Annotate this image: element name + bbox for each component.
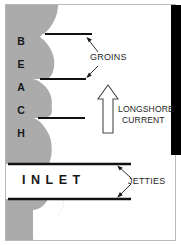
beach-letter-e: E: [17, 59, 24, 70]
right-black-bar: [171, 5, 181, 155]
longshore-current-label-line1: LONGSHORE: [118, 104, 174, 114]
beach-letter-a: A: [17, 82, 25, 93]
coastal-diagram: B E A C H GROINS LONGSHORE CURRENT INLET…: [0, 0, 181, 245]
beach-label: B E A C H: [13, 36, 29, 151]
longshore-current-label-line2: CURRENT: [118, 115, 174, 126]
longshore-current-label: LONGSHORE CURRENT: [118, 104, 174, 126]
beach-letter-h: H: [17, 128, 25, 139]
beach-letter-b: B: [17, 36, 25, 47]
groins-label: GROINS: [90, 53, 127, 62]
inlet-label: INLET: [22, 174, 86, 187]
jetties-label: JETTIES: [128, 177, 165, 186]
beach-letter-c: C: [17, 105, 25, 116]
